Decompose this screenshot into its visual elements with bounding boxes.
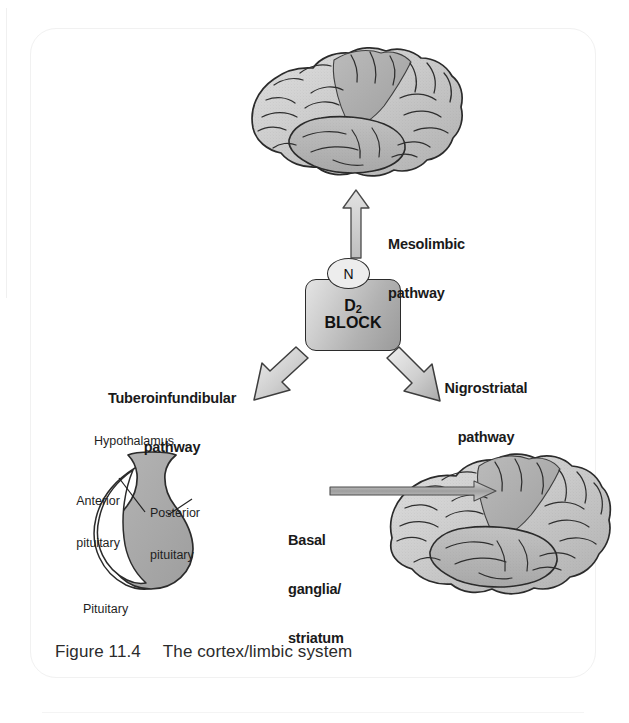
basal-ganglia-line2: ganglia/ — [288, 581, 344, 597]
hypothalamus-label: Hypothalamus — [94, 434, 174, 448]
mesolimbic-label-line2: pathway — [388, 285, 465, 301]
posterior-pituitary-label: Posterior pituitary — [150, 478, 250, 590]
posterior-pituitary-line2: pituitary — [150, 548, 250, 562]
n-node-label: N — [343, 267, 353, 281]
figure-caption: Figure 11.4The cortex/limbic system — [55, 642, 352, 662]
d2-block-symbol: D2 — [344, 298, 362, 314]
mesolimbic-arrow — [343, 190, 369, 258]
figure-caption-title: The cortex/limbic system — [163, 642, 352, 661]
d2-symbol-letter: D — [344, 297, 356, 314]
anterior-pituitary-line1: Anterior — [36, 494, 120, 508]
tuberoinfundibular-label-line1: Tuberoinfundibular — [82, 390, 262, 406]
posterior-pituitary-line1: Posterior — [150, 506, 250, 520]
basal-ganglia-line1: Basal — [288, 532, 344, 548]
d2-block-word: BLOCK — [325, 314, 382, 332]
anterior-pituitary-line2: pituitary — [36, 536, 120, 550]
d2-block-box: D2 BLOCK — [305, 279, 401, 351]
mesolimbic-label-line1: Mesolimbic — [388, 236, 465, 252]
pituitary-label: Pituitary — [83, 602, 128, 616]
figure-page: N D2 BLOCK Mesolimbic pathway Tuberoinfu… — [0, 0, 629, 723]
nigrostriatal-label-line2: pathway — [412, 429, 560, 445]
mesolimbic-pathway-label: Mesolimbic pathway — [388, 204, 465, 334]
cortex-limbic-brain-illustration — [252, 48, 462, 176]
d2-symbol-subscript: 2 — [356, 303, 362, 315]
nigrostriatal-label-line1: Nigrostriatal — [412, 380, 560, 396]
nigrostriatal-pathway-label: Nigrostriatal pathway — [412, 348, 560, 478]
tuberoinfundibular-arrow — [254, 347, 308, 400]
figure-caption-number: Figure 11.4 — [55, 642, 141, 661]
dopamine-receptor-n-node: N — [327, 258, 370, 289]
anterior-pituitary-label: Anterior pituitary — [36, 466, 120, 578]
